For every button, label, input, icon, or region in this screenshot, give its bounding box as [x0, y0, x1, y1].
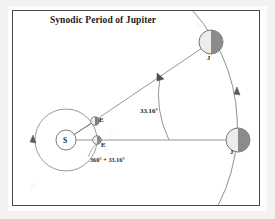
sun-label: S: [63, 136, 67, 145]
earth-label-2: E: [101, 141, 106, 149]
earth-label-1: E: [99, 116, 104, 124]
diagram-canvas: [0, 0, 275, 219]
synodic-angle-label: 33.16°: [140, 107, 158, 114]
jupiter-orbit-direction-arrow: [234, 87, 240, 95]
angle-arc: [158, 77, 169, 140]
figure-root: Synodic Period of Jupiter S E E J J 33.1…: [0, 0, 275, 219]
total-angle-label: 360° + 33.16°: [90, 156, 125, 163]
figure-title: Synodic Period of Jupiter: [28, 15, 178, 25]
jupiter-label-2: J: [230, 148, 233, 155]
jupiter-label-1: J: [207, 54, 210, 61]
